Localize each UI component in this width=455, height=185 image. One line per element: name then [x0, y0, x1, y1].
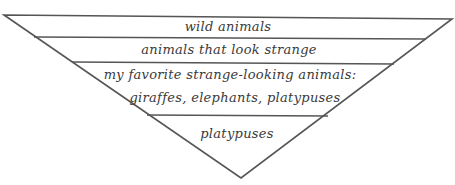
level-2-label: animals that look strange [141, 42, 317, 57]
level-4-label: platypuses [200, 126, 274, 141]
level-3-label-line1: my favorite strange-looking animals: [104, 67, 357, 82]
inverted-triangle-diagram: wild animals animals that look strange m… [0, 0, 455, 185]
level-3-label-line2: giraffes, elephants, platypuses [129, 90, 340, 105]
level-1-label: wild animals [185, 19, 272, 34]
divider-3 [147, 115, 328, 116]
